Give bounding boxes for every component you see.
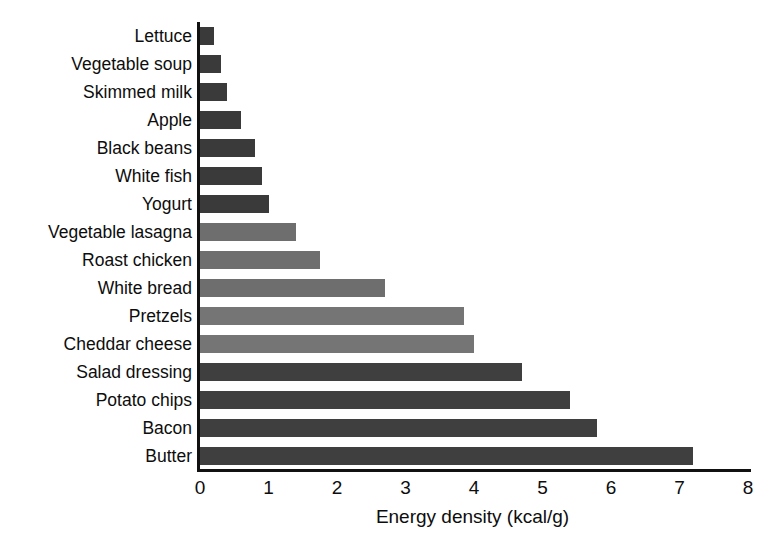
x-tick-label: 6 [591, 476, 631, 500]
bar [200, 363, 522, 381]
bar-row: Salad dressing [200, 358, 748, 386]
x-tick-label: 0 [180, 476, 220, 500]
bar [200, 195, 269, 213]
x-tick-label: 1 [249, 476, 289, 500]
category-label: Butter [2, 442, 192, 470]
bar [200, 419, 597, 437]
bar [200, 167, 262, 185]
bar [200, 447, 693, 465]
bar [200, 223, 296, 241]
bar-row: White fish [200, 162, 748, 190]
bar [200, 111, 241, 129]
category-label: Pretzels [2, 302, 192, 330]
x-tick-label: 2 [317, 476, 357, 500]
category-label: Bacon [2, 414, 192, 442]
x-tick-label: 3 [386, 476, 426, 500]
bar [200, 27, 214, 45]
energy-density-bar-chart: Energy density (kcal/g) LettuceVegetable… [0, 0, 777, 551]
bar-row: Skimmed milk [200, 78, 748, 106]
bar-row: Lettuce [200, 22, 748, 50]
category-label: Salad dressing [2, 358, 192, 386]
x-axis-title-text: Energy density (kcal/g) [376, 506, 569, 528]
x-tick-label: 8 [728, 476, 768, 500]
bar [200, 307, 464, 325]
bar-row: Roast chicken [200, 246, 748, 274]
bar [200, 335, 474, 353]
category-label: Black beans [2, 134, 192, 162]
category-label: Vegetable soup [2, 50, 192, 78]
bar [200, 391, 570, 409]
bar-row: Vegetable soup [200, 50, 748, 78]
bar [200, 251, 320, 269]
bar-row: Vegetable lasagna [200, 218, 748, 246]
bar [200, 55, 221, 73]
x-tick-label: 7 [660, 476, 700, 500]
x-tick-label: 4 [454, 476, 494, 500]
category-label: Cheddar cheese [2, 330, 192, 358]
bar-row: Butter [200, 442, 748, 470]
category-label: White fish [2, 162, 192, 190]
bar-row: Black beans [200, 134, 748, 162]
bar-row: White bread [200, 274, 748, 302]
x-tick-label: 5 [523, 476, 563, 500]
bar-row: Apple [200, 106, 748, 134]
category-label: Potato chips [2, 386, 192, 414]
bar-row: Pretzels [200, 302, 748, 330]
bar-row: Yogurt [200, 190, 748, 218]
category-label: White bread [2, 274, 192, 302]
category-label: Lettuce [2, 22, 192, 50]
bar [200, 139, 255, 157]
category-label: Roast chicken [2, 246, 192, 274]
category-label: Skimmed milk [2, 78, 192, 106]
bar [200, 279, 385, 297]
x-axis-title: Energy density (kcal/g) [0, 506, 777, 528]
bar-row: Cheddar cheese [200, 330, 748, 358]
bar-row: Potato chips [200, 386, 748, 414]
bar-row: Bacon [200, 414, 748, 442]
category-label: Vegetable lasagna [2, 218, 192, 246]
bar [200, 83, 227, 101]
category-label: Yogurt [2, 190, 192, 218]
category-label: Apple [2, 106, 192, 134]
